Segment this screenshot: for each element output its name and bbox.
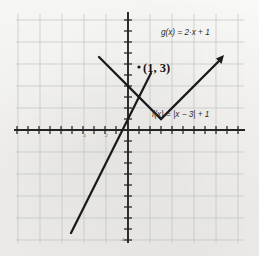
- coordinate-plane: -4 -2 -4 (1, 3) g(x) = 2·x + 1 f(x) = |x…: [0, 0, 259, 256]
- function-label-f: f(x) = |x − 3| + 1: [152, 110, 209, 119]
- axes: [14, 12, 245, 243]
- x-tick-label-neg2: -2: [104, 133, 108, 138]
- function-label-g: g(x) = 2·x + 1: [161, 28, 210, 37]
- intersection-point-marker: [137, 65, 140, 68]
- x-tick-label-neg4: -4: [82, 133, 86, 138]
- intersection-point-label: (1, 3): [143, 61, 170, 75]
- graph-figure: -4 -2 -4 (1, 3) g(x) = 2·x + 1 f(x) = |x…: [0, 0, 259, 256]
